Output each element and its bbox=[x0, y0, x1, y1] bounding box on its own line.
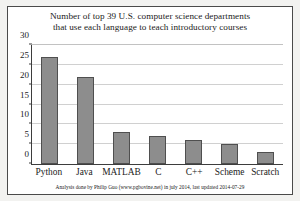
bar-slot bbox=[68, 45, 104, 164]
bar-cplusplus bbox=[185, 140, 202, 164]
y-tick-label: 5 bbox=[25, 129, 30, 139]
y-tick-label: 20 bbox=[20, 70, 29, 80]
x-tick-label-scheme: Scheme bbox=[212, 167, 248, 177]
chart-footnote: Analysis done by Philip Guo (www.pgbovin… bbox=[8, 184, 292, 190]
bar-slot bbox=[104, 45, 140, 164]
x-tick-label-c: C bbox=[141, 167, 177, 177]
y-tick-label: 15 bbox=[20, 90, 29, 100]
chart-figure: Number of top 39 U.S. computer science d… bbox=[0, 0, 300, 201]
bar-java bbox=[77, 77, 94, 164]
bar-slot bbox=[140, 45, 176, 164]
chart-title-line-1: Number of top 39 U.S. computer science d… bbox=[8, 11, 292, 22]
chart-title: Number of top 39 U.S. computer science d… bbox=[8, 11, 292, 33]
chart-panel: Number of top 39 U.S. computer science d… bbox=[7, 6, 293, 195]
x-tick-label-scratch: Scratch bbox=[247, 167, 283, 177]
bar-scratch bbox=[257, 152, 274, 164]
x-axis-labels: PythonJavaMATLABCC++SchemeScratch bbox=[31, 167, 283, 177]
x-tick-label-java: Java bbox=[67, 167, 103, 177]
bar-c bbox=[149, 136, 166, 164]
bar-series bbox=[32, 45, 283, 164]
x-tick-label-python: Python bbox=[31, 167, 67, 177]
bar-slot bbox=[211, 45, 247, 164]
chart-title-line-2: that use each language to teach introduc… bbox=[8, 22, 292, 33]
y-tick-label: 0 bbox=[25, 149, 30, 159]
x-tick-label-matlab: MATLAB bbox=[102, 167, 141, 177]
y-tick-label: 30 bbox=[20, 30, 29, 40]
x-tick-label-cplusplus: C++ bbox=[176, 167, 212, 177]
plot-area: 051015202530 bbox=[31, 45, 283, 165]
bar-python bbox=[41, 57, 58, 164]
bar-scheme bbox=[221, 144, 238, 164]
bar-slot bbox=[247, 45, 283, 164]
bar-slot bbox=[175, 45, 211, 164]
bar-matlab bbox=[113, 132, 130, 164]
bar-slot bbox=[32, 45, 68, 164]
y-tick-label: 25 bbox=[20, 50, 29, 60]
y-tick-label: 10 bbox=[20, 109, 29, 119]
